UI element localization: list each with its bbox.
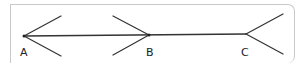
point-label-a: A xyxy=(20,47,28,58)
point-label-b: B xyxy=(146,47,154,58)
ray-c-lower xyxy=(246,34,283,54)
ray-b-upper xyxy=(113,16,149,35)
main-line xyxy=(24,34,246,36)
diagram-canvas: A B C xyxy=(0,0,308,66)
point-label-c: C xyxy=(241,47,249,58)
vertex-a-dot xyxy=(23,35,26,38)
vertex-b-dot xyxy=(148,34,151,37)
rays-point-c xyxy=(246,14,283,54)
ray-b-lower xyxy=(113,35,149,55)
ray-a-lower xyxy=(24,36,61,56)
line-diagram xyxy=(0,0,308,66)
ray-a-upper xyxy=(24,16,61,36)
ray-c-upper xyxy=(246,14,283,34)
